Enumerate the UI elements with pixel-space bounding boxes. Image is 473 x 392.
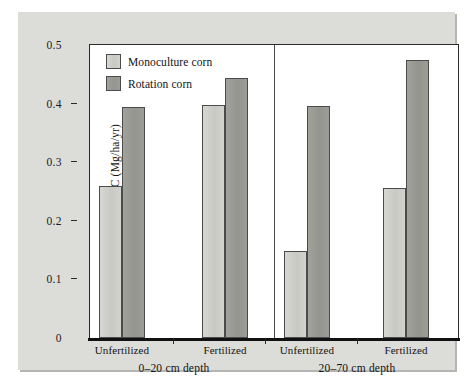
x-label-unfertilized-20-70: Unfertilized [280, 344, 334, 356]
y-tick-label: 0.2 [46, 215, 62, 227]
chart-screenshot: Maize-derived C (Mg/ha/yr) 0.5 0.4 0.3 0… [0, 0, 473, 392]
bar-monoculture-20-70-fertilized [383, 188, 406, 338]
x-tick-mark [265, 338, 266, 344]
y-tick-label: 0 [56, 332, 62, 344]
x-label-fertilized-0-20: Fertilized [203, 344, 246, 356]
legend: Monoculture corn Rotation corn [106, 54, 212, 98]
bar-monoculture-20-70-unfertilized [284, 251, 307, 338]
bar-monoculture-0-20-fertilized [202, 105, 225, 338]
bar-rotation-20-70-fertilized [406, 60, 429, 338]
legend-item-monoculture-corn: Monoculture corn [106, 54, 212, 69]
bar-rotation-0-20-unfertilized [122, 107, 145, 339]
bar-rotation-0-20-fertilized [225, 78, 248, 338]
bar-rotation-20-70-unfertilized [307, 106, 330, 338]
y-tick-label: 0.4 [46, 98, 62, 110]
legend-item-rotation-corn: Rotation corn [106, 76, 212, 91]
x-tick-mark [357, 338, 358, 344]
x-tick-mark [173, 338, 174, 344]
panel-label-0-20-cm-depth: 0–20 cm depth [139, 362, 210, 374]
legend-swatch-icon [106, 54, 121, 69]
y-tick-label: 0.1 [46, 273, 62, 285]
panel-label-20-70-cm-depth: 20–70 cm depth [319, 362, 396, 374]
bar-monoculture-0-20-unfertilized [99, 186, 122, 338]
legend-label: Rotation corn [128, 78, 192, 90]
x-label-fertilized-20-70: Fertilized [384, 344, 427, 356]
legend-label: Monoculture corn [128, 56, 212, 68]
x-axis-line [88, 338, 460, 341]
y-tick-label: 0.3 [46, 156, 62, 168]
y-tick-label: 0.5 [46, 39, 62, 51]
figure-plate: Maize-derived C (Mg/ha/yr) 0.5 0.4 0.3 0… [18, 12, 455, 370]
x-label-unfertilized-0-20: Unfertilized [95, 344, 149, 356]
legend-swatch-icon [106, 76, 121, 91]
